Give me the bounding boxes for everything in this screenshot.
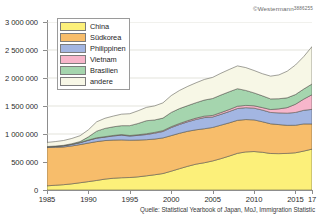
chart-legend: ChinaSüdkoreaPhilippinenVietnamBrasilien… bbox=[57, 18, 130, 90]
legend-item-label: China bbox=[90, 22, 109, 31]
y-axis-tick-label: 2 500 000 bbox=[5, 46, 38, 55]
x-axis-tick-mark bbox=[312, 190, 313, 194]
legend-item: Brasilien bbox=[60, 65, 126, 76]
x-axis-tick-mark bbox=[130, 190, 131, 194]
y-axis-tick-label: 2 000 000 bbox=[5, 74, 38, 83]
x-axis-tick-mark bbox=[213, 190, 214, 194]
x-axis-tick-mark bbox=[47, 190, 48, 194]
copyright-text: ©Westermann bbox=[253, 5, 294, 12]
x-axis-tick-mark bbox=[88, 190, 89, 194]
legend-swatch bbox=[60, 22, 86, 31]
x-axis-tick-label: 1995 bbox=[122, 195, 139, 204]
x-axis-tick-label: 2005 bbox=[204, 195, 221, 204]
x-axis-tick-label: 17 bbox=[308, 195, 316, 204]
legend-item-label: andere bbox=[90, 77, 113, 86]
legend-swatch bbox=[60, 66, 86, 75]
chart-root: ©Westermann3886255 0500 0001 000 0001 50… bbox=[0, 0, 319, 220]
legend-swatch bbox=[60, 77, 86, 86]
legend-item: Südkorea bbox=[60, 32, 126, 43]
legend-swatch bbox=[60, 55, 86, 64]
x-axis-tick-label: 1990 bbox=[80, 195, 97, 204]
x-axis-tick-label: 2000 bbox=[163, 195, 180, 204]
copyright-code: 3886255 bbox=[294, 6, 313, 11]
y-axis-tick-label: 500 000 bbox=[11, 158, 38, 167]
y-axis-labels: 0500 0001 000 0001 500 0002 000 0002 500… bbox=[0, 0, 45, 220]
x-axis-line bbox=[47, 190, 313, 191]
x-axis-tick-mark bbox=[171, 190, 172, 194]
x-axis-tick-mark bbox=[295, 190, 296, 194]
legend-item-label: Philippinen bbox=[90, 44, 126, 53]
legend-item: China bbox=[60, 21, 126, 32]
y-axis-tick-label: 1 500 000 bbox=[5, 102, 38, 111]
y-axis-tick-label: 1 000 000 bbox=[5, 130, 38, 139]
x-axis-tick-label: 2015 bbox=[287, 195, 304, 204]
legend-item: andere bbox=[60, 76, 126, 87]
legend-swatch bbox=[60, 33, 86, 42]
legend-item: Vietnam bbox=[60, 54, 126, 65]
legend-item-label: Brasilien bbox=[90, 66, 118, 75]
source-note: Quelle: Statistical Yearbook of Japan, M… bbox=[0, 206, 315, 213]
x-axis-tick-mark bbox=[254, 190, 255, 194]
copyright-notice: ©Westermann3886255 bbox=[253, 5, 313, 12]
legend-item: Philippinen bbox=[60, 43, 126, 54]
legend-swatch bbox=[60, 44, 86, 53]
y-axis-tick-label: 0 bbox=[34, 186, 38, 195]
legend-item-label: Südkorea bbox=[90, 33, 121, 42]
legend-item-label: Vietnam bbox=[90, 55, 117, 64]
y-axis-tick-label: 3 000 000 bbox=[5, 18, 38, 27]
x-axis-tick-label: 1985 bbox=[39, 195, 56, 204]
x-axis-tick-label: 2010 bbox=[246, 195, 263, 204]
